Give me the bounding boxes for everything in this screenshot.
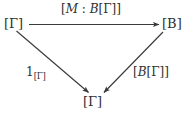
arrow-left-diagonal	[17, 31, 89, 93]
edge-label-top-colon: :	[78, 2, 90, 16]
edge-label-left-subscript: [Γ]	[34, 71, 46, 81]
edge-label-right-inner: [Γ]	[147, 65, 165, 79]
node-label-target: [B]	[162, 17, 182, 30]
edge-label-top-inner: [Γ]	[98, 2, 116, 16]
edge-label-left-base: 1	[26, 65, 34, 79]
node-label-source: [Γ]	[4, 17, 23, 30]
node-label-apex: [Γ]	[83, 95, 102, 108]
edge-label-right-bvar: B	[138, 65, 147, 79]
edge-label-right-close: ]	[164, 65, 169, 79]
edge-label-left-diagonal: 1[Γ]	[26, 66, 46, 80]
edge-label-right-diagonal: [B[Γ]]	[133, 66, 169, 78]
edge-label-top-mvar: M	[66, 2, 78, 16]
commutative-diagram: [Γ] [B] [Γ] [M : B[Γ]] 1[Γ] [B[Γ]]	[0, 0, 186, 117]
arrow-right-diagonal	[104, 32, 163, 93]
edge-label-top: [M : B[Γ]]	[61, 3, 121, 15]
edge-label-top-close: ]	[116, 2, 121, 16]
